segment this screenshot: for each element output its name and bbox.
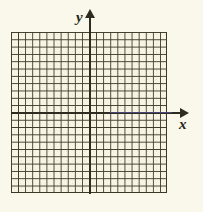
- y-axis-label: y: [76, 10, 83, 25]
- coordinate-grid-figure: y x: [0, 0, 203, 212]
- up-arrow-icon: [85, 9, 95, 18]
- x-axis-tint-segment: [110, 112, 172, 113]
- x-axis-label: x: [179, 117, 187, 132]
- y-axis-line: [89, 16, 91, 194]
